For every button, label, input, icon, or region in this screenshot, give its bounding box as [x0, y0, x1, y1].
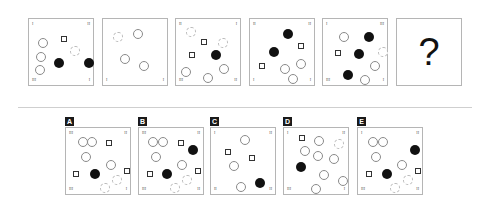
square-icon [178, 140, 184, 146]
hollow-circle-icon [203, 73, 213, 83]
corner-numeral-tl: III [69, 131, 73, 135]
hollow-circle-icon [236, 182, 246, 192]
corner-numeral-bl: III [326, 78, 330, 82]
corner-numeral-br: I [126, 187, 127, 191]
hollow-circle-icon [229, 161, 239, 171]
hollow-circle-icon [219, 64, 229, 74]
hollow-circle-icon [158, 137, 168, 147]
filled-circle-icon [211, 50, 221, 60]
option-label-b[interactable]: B [138, 117, 147, 126]
filled-circle-icon [269, 47, 279, 57]
light-circle-icon [112, 175, 122, 185]
filled-circle-icon [90, 169, 100, 179]
option-label-c[interactable]: C [210, 117, 219, 126]
hollow-circle-icon [397, 160, 407, 170]
corner-numeral-br: II [269, 187, 272, 191]
corner-numeral-bl: III [69, 187, 73, 191]
hollow-circle-icon [288, 74, 298, 84]
light-circle-icon [218, 38, 228, 48]
filled-circle-icon [410, 145, 420, 155]
corner-numeral-tl: I [32, 22, 33, 26]
hollow-circle-icon [313, 151, 323, 161]
light-circle-icon [113, 32, 123, 42]
hollow-circle-icon [87, 137, 97, 147]
hollow-circle-icon [311, 184, 321, 194]
question-mark: ? [397, 19, 461, 85]
filled-circle-icon [188, 145, 198, 155]
light-circle-icon [170, 183, 180, 193]
filled-circle-icon [54, 58, 64, 68]
square-icon [366, 171, 372, 177]
hollow-circle-icon [378, 137, 388, 147]
panel-1: IIIIIII [28, 18, 94, 86]
hollow-circle-icon [181, 67, 191, 77]
filled-circle-icon [364, 32, 374, 42]
corner-numeral-tr: II [87, 22, 90, 26]
option-label-e[interactable]: E [357, 117, 366, 126]
option-label-d[interactable]: D [283, 117, 292, 126]
filled-circle-icon [343, 70, 353, 80]
corner-numeral-bl: III [179, 78, 183, 82]
hollow-circle-icon [371, 152, 381, 162]
option-c[interactable]: IIIIIII [210, 127, 276, 195]
corner-numeral-tl: I [326, 22, 327, 26]
square-icon [189, 52, 195, 58]
panel-2: II [102, 18, 168, 86]
corner-numeral-bl: II [214, 187, 217, 191]
square-icon [415, 168, 421, 174]
square-icon [106, 140, 112, 146]
hollow-circle-icon [35, 65, 45, 75]
filled-circle-icon [354, 49, 364, 59]
corner-numeral-br: I [344, 187, 345, 191]
light-circle-icon [390, 183, 400, 193]
panel-4: IIIIII [249, 18, 315, 86]
hollow-circle-icon [36, 52, 46, 62]
hollow-circle-icon [296, 59, 306, 69]
hollow-circle-icon [38, 38, 48, 48]
square-icon [299, 135, 305, 141]
corner-numeral-tl: I [287, 131, 288, 135]
light-circle-icon [70, 46, 80, 56]
hollow-circle-icon [133, 29, 143, 39]
square-icon [259, 63, 265, 69]
option-d[interactable]: IIIIIII [283, 127, 349, 195]
panel-5: IIIIIIII [322, 18, 388, 86]
corner-numeral-br: I [163, 78, 164, 82]
hollow-circle-icon [314, 136, 324, 146]
corner-numeral-tr: I [236, 22, 237, 26]
corner-numeral-br: II [234, 78, 237, 82]
corner-numeral-bl: I [106, 78, 107, 82]
square-icon [298, 43, 304, 49]
divider-line [18, 107, 472, 108]
corner-numeral-bl: III [287, 187, 291, 191]
square-icon [124, 168, 130, 174]
option-b[interactable]: IIIIIIIIII [138, 127, 204, 195]
corner-numeral-tl: III [142, 131, 146, 135]
corner-numeral-tr: II [197, 131, 200, 135]
option-label-a[interactable]: A [65, 117, 74, 126]
corner-numeral-bl: III [32, 78, 36, 82]
corner-numeral-br: I [89, 78, 90, 82]
hollow-circle-icon [360, 75, 370, 85]
light-circle-icon [403, 175, 413, 185]
corner-numeral-tl: I [361, 131, 362, 135]
filled-circle-icon [382, 169, 392, 179]
filled-circle-icon [84, 58, 94, 68]
corner-numeral-bl: III [142, 187, 146, 191]
square-icon [225, 149, 231, 155]
corner-numeral-tr: II [342, 131, 345, 135]
corner-numeral-tr: III [380, 22, 384, 26]
hollow-circle-icon [368, 137, 378, 147]
square-icon [195, 168, 201, 174]
light-circle-icon [186, 27, 196, 37]
square-icon [61, 36, 67, 42]
corner-numeral-tr: II [416, 131, 419, 135]
option-e[interactable]: IIIIIIII [357, 127, 423, 195]
filled-circle-icon [296, 162, 306, 172]
light-circle-icon [334, 139, 344, 149]
option-a[interactable]: IIIIIIIII [65, 127, 131, 195]
hollow-circle-icon [370, 61, 380, 71]
panel-3: IIIIIIII [175, 18, 241, 86]
filled-circle-icon [283, 29, 293, 39]
light-circle-icon [100, 183, 110, 193]
